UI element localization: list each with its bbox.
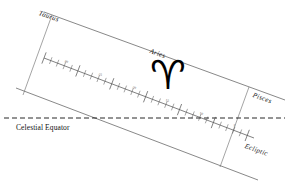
- label-celestial-equator: Celestial Equator: [16, 124, 70, 132]
- tick-label: 20: [131, 86, 135, 90]
- ecliptic-aries-diagram: Taurus Aries Pisces Ecliptic Celestial E…: [0, 0, 289, 196]
- diagram-canvas: [0, 0, 289, 196]
- major-tick: [211, 117, 215, 128]
- tick-label: 25: [97, 73, 101, 77]
- major-tick: [245, 130, 249, 141]
- major-tick: [143, 91, 147, 102]
- major-tick: [110, 78, 114, 89]
- major-tick: [177, 104, 181, 115]
- ecliptic-tick-marks: [42, 52, 250, 141]
- aries-zodiac-symbol: ♈: [150, 55, 186, 95]
- major-tick: [76, 65, 80, 76]
- major-tick: [42, 52, 46, 63]
- taurus-aries-boundary-line: [23, 15, 52, 95]
- band-lower-boundary-line: [16, 88, 258, 180]
- ecliptic-axis-line: [44, 58, 254, 138]
